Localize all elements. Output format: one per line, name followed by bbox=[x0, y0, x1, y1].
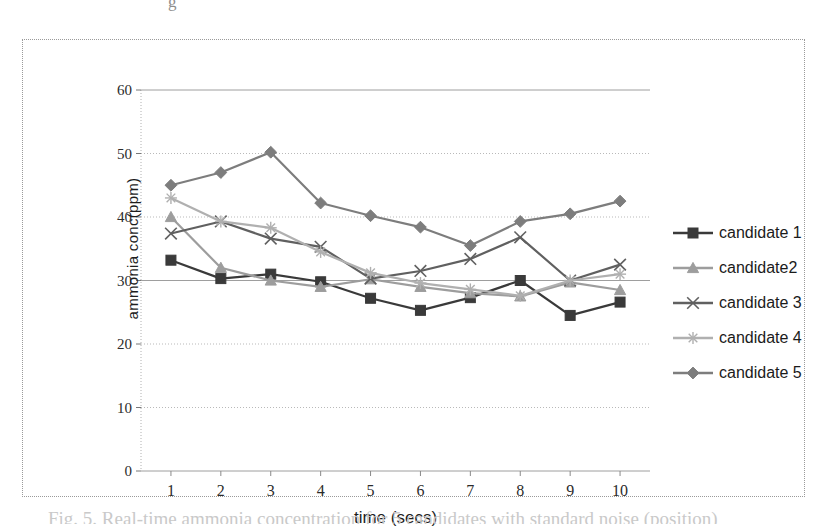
square-marker bbox=[615, 297, 625, 307]
square-marker bbox=[415, 305, 425, 315]
star-marker bbox=[671, 330, 715, 346]
triangle-marker bbox=[671, 260, 715, 276]
y-tick-label: 60 bbox=[117, 82, 132, 99]
square-marker bbox=[166, 255, 176, 265]
legend-item: candidate 4 bbox=[671, 320, 821, 355]
square-marker bbox=[565, 310, 575, 320]
series-candidate2 bbox=[165, 211, 625, 301]
legend-label: candidate 3 bbox=[719, 294, 802, 312]
x-tick-label: 1 bbox=[167, 482, 175, 500]
square-marker bbox=[515, 276, 525, 286]
star-marker bbox=[687, 332, 699, 344]
diamond-marker bbox=[687, 367, 699, 379]
cross-marker bbox=[671, 295, 715, 311]
diamond-marker bbox=[215, 167, 227, 179]
series-line bbox=[171, 198, 620, 296]
y-tick-label: 0 bbox=[125, 463, 133, 480]
x-tick-label: 4 bbox=[317, 482, 325, 500]
series-line bbox=[171, 152, 620, 245]
legend-item: candidate 5 bbox=[671, 355, 821, 390]
top-cropped-text: g bbox=[168, 0, 177, 12]
plot-area: 0102030405060 12345678910 bbox=[141, 90, 650, 471]
star-marker bbox=[215, 215, 227, 227]
series-candidate-5 bbox=[165, 146, 626, 251]
diamond-marker bbox=[165, 179, 177, 191]
square-marker bbox=[671, 225, 715, 241]
star-marker bbox=[365, 267, 377, 279]
series-candidate-3 bbox=[165, 216, 626, 287]
legend-label: candidate 4 bbox=[719, 329, 802, 347]
series-candidate-4 bbox=[165, 192, 626, 302]
star-marker bbox=[514, 290, 526, 302]
x-tick-label: 3 bbox=[267, 482, 275, 500]
star-marker bbox=[464, 283, 476, 295]
cross-marker bbox=[514, 232, 526, 244]
star-marker bbox=[165, 192, 177, 204]
legend-item: candidate 1 bbox=[671, 215, 821, 250]
x-tick-label: 7 bbox=[466, 482, 474, 500]
x-tick-label: 5 bbox=[367, 482, 375, 500]
x-tick-label: 6 bbox=[416, 482, 424, 500]
diamond-marker bbox=[464, 240, 476, 252]
x-tick-label: 8 bbox=[516, 482, 524, 500]
square-marker bbox=[688, 228, 698, 238]
square-marker bbox=[216, 274, 226, 284]
star-marker bbox=[614, 268, 626, 280]
diamond-marker bbox=[365, 210, 377, 222]
series-candidate-1 bbox=[166, 255, 625, 320]
y-tick-label: 10 bbox=[117, 399, 132, 416]
legend-item: candidate2 bbox=[671, 250, 821, 285]
diamond-marker bbox=[415, 221, 427, 233]
x-tick-label: 10 bbox=[612, 482, 628, 500]
chart-legend: candidate 1candidate2candidate 3candidat… bbox=[671, 215, 821, 390]
star-marker bbox=[315, 246, 327, 258]
legend-label: candidate2 bbox=[719, 259, 797, 277]
line-chart-svg bbox=[141, 90, 650, 471]
bottom-cropped-caption: Fig. 5. Real-time ammonia concentration … bbox=[48, 508, 788, 524]
diamond-marker bbox=[671, 365, 715, 381]
chart-frame: 0102030405060 12345678910 time (secs) am… bbox=[22, 39, 805, 497]
plot-inner bbox=[141, 90, 650, 471]
x-tick-label: 9 bbox=[566, 482, 574, 500]
legend-label: candidate 1 bbox=[719, 224, 802, 242]
x-tick-label: 2 bbox=[217, 482, 225, 500]
star-marker bbox=[265, 222, 277, 234]
diamond-marker bbox=[564, 208, 576, 220]
legend-label: candidate 5 bbox=[719, 364, 802, 382]
series-line bbox=[171, 217, 620, 296]
star-marker bbox=[414, 277, 426, 289]
square-marker bbox=[366, 293, 376, 303]
diamond-marker bbox=[614, 195, 626, 207]
y-axis-title: ammonia conc(ppm) bbox=[124, 134, 141, 364]
legend-item: candidate 3 bbox=[671, 285, 821, 320]
star-marker bbox=[564, 275, 576, 287]
